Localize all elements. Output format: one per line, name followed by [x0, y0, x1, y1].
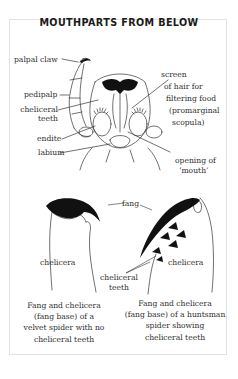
label-labium: labium — [38, 148, 64, 158]
label-scopula-line5: scopula) — [172, 118, 204, 128]
label-cheliceral-teeth-bottom-line2: teeth — [96, 283, 142, 293]
pedipalp-drawing — [69, 62, 90, 137]
label-palpal-claw: palpal claw — [14, 55, 58, 65]
label-chelicera-left: chelicera — [40, 258, 75, 268]
label-cheliceral-teeth-bottom-line1: cheliceral — [96, 273, 142, 283]
label-scopula-line1: screen — [161, 70, 187, 80]
caption-right-line4: cheliceral teeth — [122, 332, 228, 343]
caption-left-line2: (fang base) of a — [14, 311, 114, 322]
label-chelicera-right: chelicera — [168, 258, 203, 268]
caption-huntsman-spider: Fang and chelicera (fang base) of a hunt… — [122, 298, 228, 343]
caption-right-line1: Fang and chelicera — [122, 298, 228, 309]
label-scopula-line2: of hair for — [164, 82, 203, 92]
caption-left-line3: velvet spider with no — [14, 322, 114, 333]
caption-velvet-spider: Fang and chelicera (fang base) of a velv… — [14, 300, 114, 345]
caption-right-line3: spider showing — [122, 320, 228, 331]
label-scopula-line4: (promarginal — [169, 106, 220, 116]
label-cheliceral-teeth-line2: teeth — [20, 114, 58, 124]
caption-left-line4: cheliceral teeth — [14, 334, 114, 345]
label-mouth-line1: opening of — [175, 156, 216, 166]
label-fang: fang — [122, 199, 139, 209]
caption-left-line1: Fang and chelicera — [14, 300, 114, 311]
label-endite: endite — [37, 134, 61, 144]
caption-right-line2: (fang base) of a huntsman — [122, 309, 228, 320]
label-pedipalp: pedipalp — [24, 90, 57, 100]
label-mouth-line2: ‘mouth’ — [179, 166, 208, 176]
chelicerae-dark-tips — [102, 79, 138, 94]
label-scopula-line3: filtering food — [166, 94, 216, 104]
